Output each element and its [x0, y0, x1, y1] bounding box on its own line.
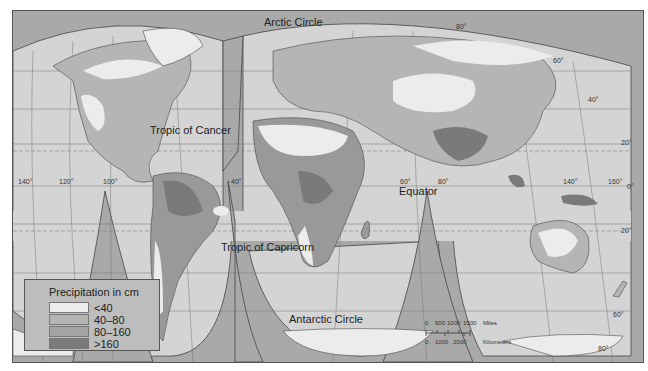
legend-swatch	[49, 338, 89, 349]
scale-unit-km: Kilometers	[483, 339, 511, 345]
scale-tick: 500	[435, 320, 445, 326]
legend-label: 40–80	[94, 314, 125, 326]
legend-item: <40	[49, 302, 113, 313]
lon-140w: 140°	[18, 178, 32, 185]
scale-tick: 1000	[435, 339, 448, 345]
lat-60n: 60°	[553, 57, 564, 64]
legend-title: Precipitation in cm	[49, 286, 139, 298]
lat-80s: 80°	[598, 345, 609, 352]
legend-item: 80–160	[49, 326, 131, 337]
lon-100w: 100°	[103, 178, 117, 185]
legend-label: <40	[94, 302, 113, 314]
lat-60s: 60°	[613, 311, 624, 318]
lon-160e: 160°	[608, 178, 622, 185]
legend-label: >160	[94, 338, 119, 350]
scale-tick: 1500	[463, 320, 476, 326]
antarctic-circle-label: Antarctic Circle	[289, 313, 363, 325]
lon-40w: 40°	[231, 178, 242, 185]
lon-140e: 140°	[563, 178, 577, 185]
scale-bar: 0 500 1000 1500 Miles 0 1000 2000 Kilome…	[425, 320, 545, 360]
legend-label: 80–160	[94, 326, 131, 338]
tropic-of-capricorn-label: Tropic of Capricorn	[221, 241, 314, 253]
scale-unit-miles: Miles	[483, 320, 497, 326]
tropic-of-cancer-label: Tropic of Cancer	[150, 124, 231, 136]
lon-80-top: 80°	[456, 23, 467, 30]
scale-tick: 1000	[447, 320, 460, 326]
lat-40n: 40°	[588, 96, 599, 103]
precipitation-legend: Precipitation in cm <40 40–80 80–160 >16…	[24, 279, 160, 351]
scale-tick: 0	[425, 339, 428, 345]
scale-tick: 0	[425, 320, 428, 326]
legend-swatch	[49, 302, 89, 313]
legend-swatch	[49, 326, 89, 337]
lat-20n: 20°	[621, 139, 632, 146]
legend-swatch	[49, 314, 89, 325]
lat-20s: 20°	[621, 227, 632, 234]
lon-120w: 120°	[59, 178, 73, 185]
legend-item: 40–80	[49, 314, 125, 325]
arctic-circle-label: Arctic Circle	[264, 16, 323, 28]
lon-80e: 80°	[438, 178, 449, 185]
equator-label: Equator	[399, 185, 438, 197]
legend-item: >160	[49, 338, 119, 349]
scale-bar-line	[425, 329, 475, 337]
scale-tick: 2000	[453, 339, 466, 345]
lon-60e: 60°	[400, 178, 411, 185]
lat-0: 0°	[627, 183, 634, 190]
